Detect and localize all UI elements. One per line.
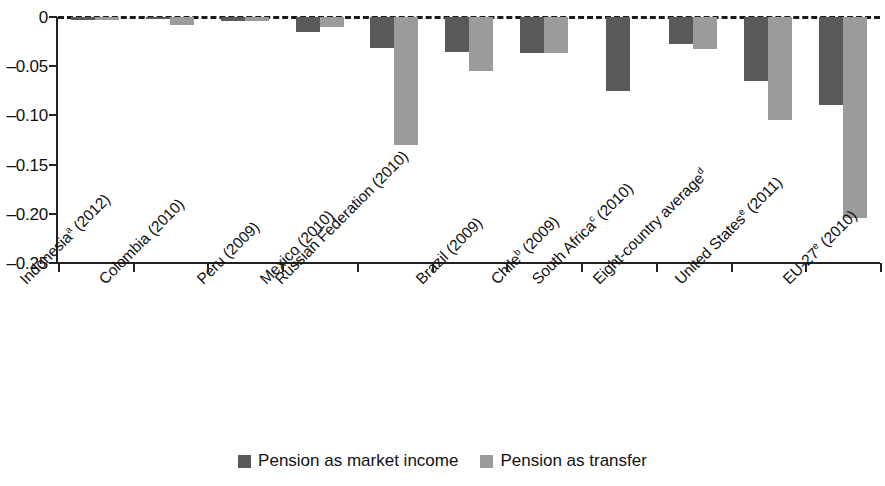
bar-pension-as-transfer [95,17,119,20]
x-axis-tick-mark [432,263,434,272]
y-axis-tick-label: 0 [39,9,48,26]
y-axis: 0–0.05–0.10–0.15–0.20–0.25 [0,0,52,280]
bar-pension-as-market-income [146,17,170,19]
bar-pension-as-market-income [669,17,693,44]
bar-pension-as-transfer [469,17,493,71]
bar-pension-as-transfer [693,17,717,49]
bar-group [357,17,432,263]
bar-pension-as-transfer [394,17,418,145]
y-axis-tick-label: –0.15 [6,156,48,173]
x-axis-category-labels: Indonesiaa (2012)Colombia (2010)Peru (20… [0,264,885,429]
bar-pension-as-market-income [744,17,768,81]
legend-label: Pension as market income [258,452,458,470]
x-axis-tick-mark [805,263,807,272]
y-axis-tick-label: –0.05 [6,58,48,75]
bar-pension-as-market-income [445,17,469,52]
bar-pension-as-transfer [170,17,194,25]
y-axis-tick-mark [49,213,57,215]
bar-pension-as-transfer [320,17,344,27]
y-axis-tick-mark [49,164,57,166]
x-axis-tick-mark [731,263,733,272]
bar-pension-as-transfer [768,17,792,120]
x-axis-tick-mark [207,263,209,272]
bar-pension-as-market-income [819,17,843,105]
x-axis-tick-mark [581,263,583,272]
y-axis-tick-mark [49,262,57,264]
y-axis-tick-mark [49,65,57,67]
bar-pension-as-transfer [245,17,269,21]
legend-item: Pension as transfer [480,452,646,470]
x-axis-tick-mark [357,263,359,272]
bar-pension-as-market-income [370,17,394,48]
y-axis-tick-label: –0.10 [6,107,48,124]
x-axis-tick-mark [880,263,882,272]
y-axis-tick-label: –0.20 [6,205,48,222]
y-axis-tick-mark [49,114,57,116]
bar-pension-as-market-income [606,17,630,91]
bar-pension-as-market-income [221,17,245,21]
bar-pension-as-market-income [296,17,320,32]
x-axis-tick-mark [282,263,284,272]
legend-label: Pension as transfer [500,452,646,470]
x-axis-tick-mark [656,263,658,272]
legend-item: Pension as market income [238,452,458,470]
bar-pension-as-market-income [71,17,95,20]
y-axis-tick-mark [49,16,57,18]
chart-figure: 0–0.05–0.10–0.15–0.20–0.25 Indonesiaa (2… [0,0,885,486]
bar-pension-as-transfer [843,17,867,218]
x-axis-tick-mark [133,263,135,272]
bar-pension-as-transfer [544,17,568,53]
x-axis-tick-mark [58,263,60,272]
chart-legend: Pension as market incomePension as trans… [0,452,885,470]
legend-swatch-icon [238,455,251,468]
legend-swatch-icon [480,455,493,468]
x-axis-tick-mark [506,263,508,272]
bar-pension-as-market-income [520,17,544,53]
